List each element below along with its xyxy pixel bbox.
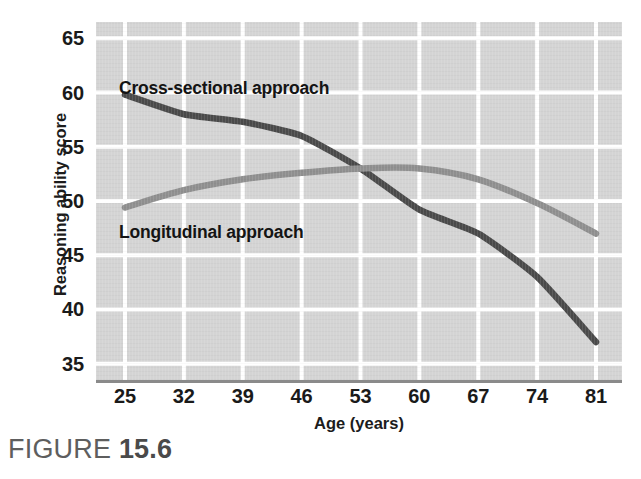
x-tick-label: 39 xyxy=(221,386,265,406)
figure-caption-word: FIGURE xyxy=(8,434,111,464)
x-tick-label: 53 xyxy=(339,386,383,406)
x-tick-label: 25 xyxy=(103,386,147,406)
plot-area xyxy=(96,22,622,380)
x-tick-label: 67 xyxy=(456,386,500,406)
y-tick-label: 55 xyxy=(62,137,96,157)
figure-container: Reasoning ability score 65605550454035 2… xyxy=(0,0,641,479)
series-label-longitudinal: Longitudinal approach xyxy=(119,222,303,243)
x-tick-label: 46 xyxy=(280,386,324,406)
y-tick-label: 65 xyxy=(62,28,96,48)
y-tick-label: 40 xyxy=(62,299,96,319)
x-axis-title: Age (years) xyxy=(96,414,622,433)
x-tick-label: 81 xyxy=(574,386,618,406)
y-tick-label: 35 xyxy=(62,354,96,374)
x-axis-baseline xyxy=(96,380,622,383)
x-tick-label: 32 xyxy=(162,386,206,406)
chart-plot-svg xyxy=(96,22,622,380)
figure-caption: FIGURE 15.6 xyxy=(8,434,172,465)
x-tick-label: 74 xyxy=(515,386,559,406)
y-tick-label: 50 xyxy=(62,191,96,211)
series-label-cross-sectional: Cross-sectional approach xyxy=(119,78,329,99)
y-tick-label: 45 xyxy=(62,245,96,265)
x-tick-label: 60 xyxy=(397,386,441,406)
figure-caption-number: 15.6 xyxy=(119,434,172,464)
y-tick-label: 60 xyxy=(62,83,96,103)
